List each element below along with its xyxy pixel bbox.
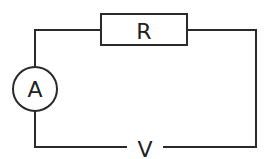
resistor-label: R bbox=[136, 19, 151, 44]
wire-top-left bbox=[35, 30, 101, 67]
supply-voltage-label: V bbox=[137, 137, 152, 159]
wire-bottom-left bbox=[35, 111, 127, 147]
circuit-diagram: R A V bbox=[0, 0, 273, 159]
wire-top-right bbox=[163, 30, 256, 147]
ammeter-label: A bbox=[27, 77, 42, 102]
